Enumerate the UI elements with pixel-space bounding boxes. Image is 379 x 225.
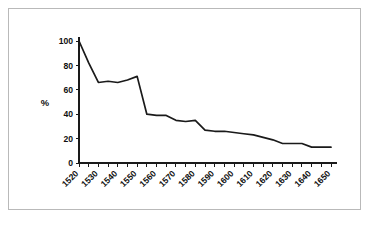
y-tick-label: 80 (63, 61, 73, 71)
x-tick-label: 1630 (273, 168, 294, 189)
y-tick-label: 20 (63, 134, 73, 144)
y-tick-label: 100 (59, 36, 74, 46)
y-tick-label: 40 (63, 109, 73, 119)
x-tick-label: 1600 (215, 168, 236, 189)
x-tick-label: 1560 (137, 168, 158, 189)
data-series-line (79, 41, 331, 147)
y-tick-label: 0 (68, 158, 73, 168)
x-tick-label: 1570 (157, 168, 178, 189)
x-tick-label: 1640 (292, 168, 313, 189)
x-tick-label: 1540 (99, 168, 120, 189)
x-tick-label: 1590 (196, 168, 217, 189)
y-axis-label: % (41, 97, 50, 108)
x-tick-label: 1610 (234, 168, 255, 189)
y-tick-label: 60 (63, 85, 73, 95)
x-tick-label: 1650 (312, 168, 333, 189)
plot-area: 020406080100%152015301540155015601570158… (41, 36, 337, 189)
x-tick-label: 1520 (60, 168, 81, 189)
x-tick-label: 1550 (118, 168, 139, 189)
line-chart: 020406080100%152015301540155015601570158… (9, 9, 362, 211)
x-tick-label: 1580 (176, 168, 197, 189)
x-tick-label: 1620 (254, 168, 275, 189)
chart-figure-frame: 020406080100%152015301540155015601570158… (8, 8, 361, 210)
x-tick-label: 1530 (79, 168, 100, 189)
